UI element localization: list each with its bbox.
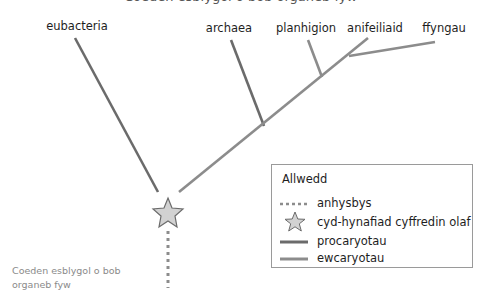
leaf-label-planhigion: planhigion	[276, 21, 336, 35]
dotted-line-icon	[280, 199, 308, 209]
star-icon	[153, 198, 183, 227]
legend-label: cyd-hynafiad cyffredin olaf	[317, 215, 471, 229]
branch-planhigion	[308, 40, 322, 77]
legend-item-ewcaryotau: ewcaryotau	[272, 250, 472, 268]
legend-label: procaryotau	[317, 234, 387, 248]
legend: Allwedd anhysbys cyd-hynafiad cyffredin …	[271, 164, 473, 268]
legend-item-procaryotau: procaryotau	[272, 233, 472, 251]
caption-line-1: Coeden esblygol o bob	[12, 264, 142, 278]
legend-item-luca: cyd-hynafiad cyffredin olaf	[272, 214, 472, 232]
branch-eubacteria	[75, 38, 158, 192]
figure-caption: Coeden esblygol o bob organeb fyw	[12, 264, 142, 292]
leaf-label-ffyngau: ffyngau	[422, 21, 466, 35]
legend-label: anhysbys	[317, 196, 372, 210]
leaf-label-archaea: archaea	[206, 21, 252, 35]
legend-label: ewcaryotau	[317, 251, 384, 265]
star-icon	[284, 211, 306, 233]
leaf-label-eubacteria: eubacteria	[46, 19, 108, 33]
light-line-icon	[280, 254, 308, 264]
caption-line-2: organeb fyw	[12, 278, 142, 292]
leaf-label-anifeiliaid: anifeiliaid	[347, 21, 403, 35]
branch-archaea	[231, 40, 264, 126]
dark-line-icon	[280, 237, 308, 247]
legend-title: Allwedd	[282, 172, 327, 186]
